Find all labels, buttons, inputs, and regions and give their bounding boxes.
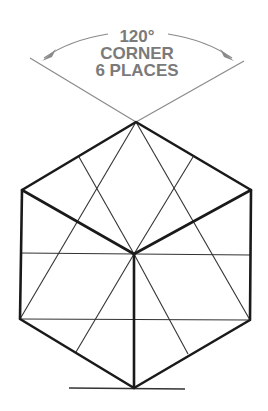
construction-lines — [20, 122, 251, 354]
hexagon-diagram: 120° CORNER 6 PLACES — [0, 0, 268, 411]
dimension-arc-right — [168, 34, 232, 58]
dimension-arc-left — [44, 34, 108, 58]
arrowhead-right-icon — [220, 49, 234, 61]
arrowhead-left-icon — [42, 49, 56, 61]
base-line — [69, 388, 185, 389]
places-label: 6 PLACES — [95, 61, 178, 80]
